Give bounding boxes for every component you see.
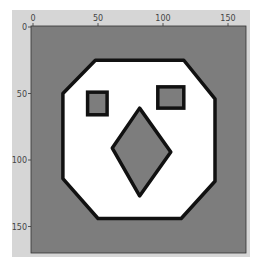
x-tick-label: 50: [93, 14, 103, 23]
x-tick-label: 0: [30, 14, 35, 23]
x-tick-label: 150: [220, 14, 235, 23]
y-tick-label: 100: [12, 156, 27, 165]
y-tick-label: 0: [22, 23, 27, 32]
y-axis-ticks: 050100150: [12, 23, 31, 232]
x-tick-label: 100: [155, 14, 170, 23]
x-axis-ticks: 050100150: [30, 14, 235, 26]
y-tick-label: 150: [12, 223, 27, 232]
y-tick-label: 50: [17, 90, 27, 99]
left-eye: [88, 92, 108, 115]
plot-area: 050100150 050100150: [12, 10, 250, 257]
axes: 050100150 050100150: [12, 14, 246, 253]
right-eye: [158, 87, 184, 108]
figure-panel: 050100150 050100150: [12, 10, 250, 257]
